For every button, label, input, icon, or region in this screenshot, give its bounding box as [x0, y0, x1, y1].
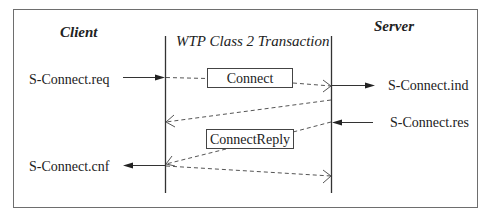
res-arrow — [332, 120, 373, 126]
connect-reply-message-box: ConnectReply — [206, 129, 294, 149]
cnf-arrow — [123, 163, 165, 169]
ind-arrow — [332, 83, 375, 89]
ack-arrow-to-client — [166, 100, 331, 127]
connect-message-box: Connect — [207, 68, 293, 88]
ack-arrow-to-server — [166, 166, 331, 183]
req-arrow — [123, 75, 165, 81]
sequence-lines — [0, 0, 490, 221]
